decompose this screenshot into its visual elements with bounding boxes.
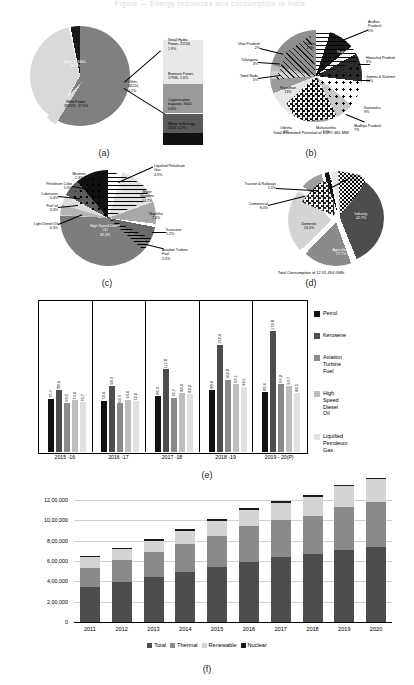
legend-swatch-icon bbox=[314, 355, 320, 361]
chart-e-legend-item: Kerosene bbox=[314, 332, 346, 339]
legend-swatch-icon bbox=[241, 643, 246, 648]
pie-b-label-gujarat: Gujarat 9% bbox=[330, 50, 356, 59]
chart-e-bar bbox=[133, 401, 139, 452]
chart-f-bar-segment bbox=[366, 502, 386, 547]
chart-f-legend-item: Thermal bbox=[170, 642, 198, 648]
chart-e-bar bbox=[286, 386, 292, 452]
pie-c-label-naphtha: Naphtha 7.4% bbox=[142, 212, 170, 221]
chart-e-bar bbox=[179, 393, 185, 452]
chart-e-bar bbox=[109, 386, 115, 452]
chart-f-bar-segment bbox=[80, 557, 100, 567]
chart-f-bar-segment bbox=[175, 529, 195, 531]
panel-f: 02,00,0004,00,0006,00,0008,00,00010,00,0… bbox=[14, 492, 400, 664]
chart-e-bar bbox=[294, 393, 300, 452]
chart-f-bar bbox=[144, 539, 164, 622]
chart-e-legend-item: Liquified Petroleum Gas bbox=[314, 433, 348, 453]
chart-f-bar-segment bbox=[366, 547, 386, 622]
chart-e-bar bbox=[278, 384, 284, 452]
pie-c-label-others: Others 11.5% bbox=[102, 186, 132, 195]
chart-f-bar-segment bbox=[144, 539, 164, 541]
chart-f-bar-segment bbox=[112, 582, 132, 622]
chart-f-bar-segment bbox=[303, 554, 323, 622]
breakout-label-waste: Waste to Energy, 2554, 0.2% bbox=[168, 122, 212, 131]
chart-f-ylabel: 4,00,000 bbox=[14, 578, 68, 584]
chart-e-bar-value: 97.1 bbox=[233, 375, 239, 383]
leader-b-mp bbox=[346, 114, 365, 122]
chart-e-bar bbox=[209, 390, 215, 452]
chart-f-bar-segment bbox=[303, 516, 323, 555]
chart-e-legend-item: Petrol bbox=[314, 310, 337, 317]
chart-f-legend-item: Renewable bbox=[202, 642, 237, 648]
chart-e-bar bbox=[225, 380, 231, 452]
chart-f-bar-segment bbox=[239, 508, 259, 510]
chart-e-bar bbox=[48, 399, 54, 452]
caption-e: (e) bbox=[0, 470, 414, 480]
breakout-label-biomass: Biomass Power, 17936, 1.6% bbox=[168, 72, 212, 81]
chart-e-bar-value: 80.3 bbox=[155, 387, 161, 395]
chart-f-bar-segment bbox=[239, 510, 259, 527]
chart-e-bar bbox=[117, 403, 123, 452]
chart-f-bar-segment bbox=[80, 556, 100, 558]
chart-e-bar bbox=[217, 345, 223, 452]
chart-f-xlabel: 2014 bbox=[169, 626, 201, 632]
chart-e-bar-value: 69.3 bbox=[117, 395, 123, 403]
chart-e-bar bbox=[163, 369, 169, 452]
breakout-seg-waste bbox=[163, 133, 203, 145]
chart-f-ylabel: 12,00,000 bbox=[14, 497, 68, 503]
chart-f-bar-segment bbox=[334, 485, 354, 487]
chart-e-bar-value: 93.7 bbox=[286, 377, 292, 385]
chart-f-bar-segment bbox=[144, 541, 164, 552]
pie-c-label-hsd: High Speed Diesel Oil 42.3% bbox=[80, 224, 130, 237]
chart-f-xlabel: 2016 bbox=[233, 626, 265, 632]
panel-d: Industry 42.7% Domestic 24.0% Agricultur… bbox=[208, 160, 414, 278]
legend-swatch-icon bbox=[314, 434, 320, 440]
chart-e-legend-label: Petrol bbox=[323, 310, 337, 317]
chart-e-bar-value: 72.0 bbox=[133, 393, 139, 401]
chart-f-xlabel: 2019 bbox=[328, 626, 360, 632]
chart-e-bar bbox=[262, 392, 268, 452]
chart-e-bar-value: 117.8 bbox=[163, 359, 169, 369]
chart-e-bar bbox=[80, 402, 86, 452]
chart-e-bar-value: 88.4 bbox=[209, 381, 215, 389]
chart-f-bar-segment bbox=[239, 562, 259, 622]
chart-f-xlabel: 2013 bbox=[138, 626, 170, 632]
legend-swatch-icon bbox=[314, 391, 320, 397]
pie-d-label-agriculture: Agriculture 17.7% bbox=[324, 248, 358, 257]
chart-f-bar bbox=[207, 519, 227, 622]
chart-f-bar-segment bbox=[207, 536, 227, 568]
chart-e-bar-value: 88.4 bbox=[56, 381, 62, 389]
chart-e-legend-label: Kerosene bbox=[323, 332, 346, 339]
chart-f-legend-label: Nuclear bbox=[248, 642, 267, 648]
chart-e-bar-value: 73.4 bbox=[72, 392, 78, 400]
chart-e-bar bbox=[64, 403, 70, 452]
legend-swatch-icon bbox=[314, 311, 320, 317]
chart-f-bar-segment bbox=[112, 549, 132, 560]
panel-c: High Speed Diesel Oil 42.3% Motor Gasoli… bbox=[6, 160, 208, 278]
chart-e-xlabel: 2017 -18 bbox=[145, 454, 199, 460]
leader-b-himachal bbox=[358, 64, 370, 65]
legend-swatch-icon bbox=[202, 643, 207, 648]
chart-f-xaxis bbox=[74, 622, 392, 623]
chart-e-legend-item: Aviation Turbine Fuel bbox=[314, 354, 342, 374]
chart-e-legend-label: Aviation Turbine Fuel bbox=[323, 354, 342, 374]
chart-e-bar-value: 172.8 bbox=[270, 320, 276, 330]
chart-f-bar-segment bbox=[271, 501, 291, 503]
chart-e-bar bbox=[125, 400, 131, 452]
pie-c-label-fueloil: Fuel oil 3.3% bbox=[18, 204, 58, 213]
leader-b-andhra bbox=[342, 30, 368, 41]
chart-e-bar-value: 82.2 bbox=[187, 385, 193, 393]
chart-f-bar-segment bbox=[207, 519, 227, 521]
chart-f-ylabel: 0 bbox=[14, 619, 68, 625]
chart-e-xlabels: 2015 -162016 -172017 -182018 -192019 - 2… bbox=[38, 454, 306, 466]
chart-f-ylabel: 2,00,000 bbox=[14, 599, 68, 605]
chart-f-xlabel: 2020 bbox=[360, 626, 392, 632]
chart-f-bar bbox=[80, 556, 100, 622]
chart-e-bar bbox=[171, 398, 177, 452]
chart-e-bar-value: 76.7 bbox=[171, 389, 177, 397]
chart-f-bar-segment bbox=[271, 557, 291, 622]
breakout-label-small-hydro: Small Hydro Power, 21134, 1.9% bbox=[168, 38, 212, 51]
chart-e-xlabel: 2018 -19 bbox=[199, 454, 253, 460]
chart-f-bar-segment bbox=[366, 479, 386, 502]
chart-f-xlabel: 2018 bbox=[297, 626, 329, 632]
chart-f-bar bbox=[366, 478, 386, 622]
